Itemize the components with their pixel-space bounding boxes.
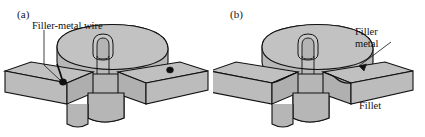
panel-b: (b) <box>213 0 425 137</box>
hub-skirt-front <box>293 93 329 122</box>
panel-b-drawing <box>213 0 425 137</box>
callout-fillet: Fillet <box>359 100 381 112</box>
callout-filler-metal-wire: Filler-metal wire <box>32 20 103 32</box>
wire-dot-right <box>167 67 174 73</box>
hub-bore-inner <box>97 38 109 59</box>
figure-container: (a) <box>0 0 425 137</box>
callout-filler-metal: Filler metal <box>355 26 378 49</box>
callout-filler-metal-line-1: Filler <box>355 26 378 38</box>
panel-a: (a) <box>0 0 212 137</box>
callout-fillet-line-1: Fillet <box>359 100 381 112</box>
wire-dot-left <box>59 79 66 85</box>
left-rib <box>272 104 293 127</box>
callout-filler-metal-wire-line-1: Filler-metal wire <box>32 20 103 32</box>
hub-bore-inner <box>302 38 314 59</box>
hub-skirt-front <box>88 93 124 122</box>
left-rib <box>67 104 88 127</box>
callout-filler-metal-line-2: metal <box>355 38 378 50</box>
